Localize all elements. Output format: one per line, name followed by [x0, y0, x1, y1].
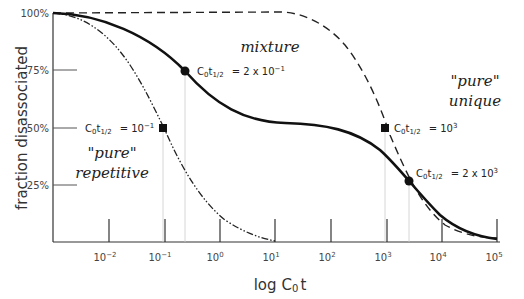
guide-lines: [163, 71, 409, 242]
label-pure-unique-2: unique: [449, 92, 501, 110]
annotation-mixture-half-2: C0t1/2= 2 x 103: [416, 167, 498, 181]
annotation-repetitive-half: C0t1/2= 10−1: [85, 122, 154, 136]
svg-text:10−2: 10−2: [93, 251, 116, 263]
y-ticks: [53, 70, 77, 185]
y-axis-title: fraction disassociated: [13, 46, 31, 210]
label-pure-repetitive-2: repetitive: [75, 164, 149, 182]
x-axis-title: logC0t: [254, 276, 307, 294]
svg-text:103: 103: [374, 251, 391, 263]
svg-text:10−1: 10−1: [148, 251, 171, 263]
label-mixture: mixture: [240, 38, 299, 56]
annotation-mixture-half-1: C0t1/2= 2 x 10−1: [197, 65, 285, 79]
svg-text:104: 104: [429, 251, 447, 263]
annotation-unique-half: C0t1/2= 103: [394, 122, 457, 136]
chart: 100% 75% 50% 25% fraction disassociated …: [0, 0, 524, 299]
y-tick-100: 100%: [20, 8, 49, 19]
x-ticks: [109, 219, 497, 242]
x-tick-labels: 10−2 10−1 100 101 102 103 104 105: [93, 251, 502, 263]
label-pure-unique-1: "pure": [450, 72, 499, 90]
label-pure-repetitive-1: "pure": [87, 144, 136, 162]
marker-square-repetitive: [159, 124, 167, 132]
svg-text:101: 101: [262, 251, 279, 263]
marker-circle-mixture-1: [181, 67, 190, 76]
svg-text:105: 105: [485, 251, 502, 263]
svg-text:100: 100: [206, 251, 223, 263]
marker-circle-mixture-2: [405, 177, 414, 186]
marker-square-unique: [381, 124, 389, 132]
svg-text:102: 102: [318, 251, 335, 263]
